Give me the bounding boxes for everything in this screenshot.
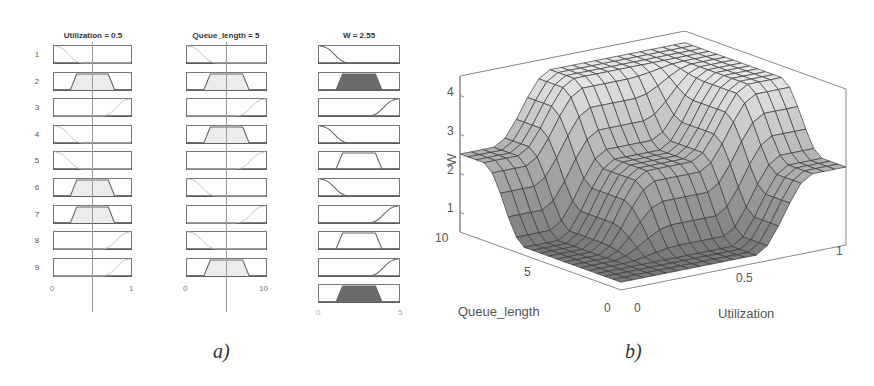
x-tick-0-5: 0.5 — [736, 271, 753, 285]
utilization-axis-label: Utilization — [718, 306, 774, 321]
x-tick-1: 1 — [836, 244, 843, 258]
z-tick-3: 3 — [447, 124, 454, 138]
queue-length-label-text: Queue_length — [458, 304, 540, 319]
caption-b: b) — [625, 340, 642, 363]
x-tick-0: 0 — [634, 301, 641, 315]
y-tick-10: 10 — [435, 231, 448, 245]
surface-plot — [0, 0, 874, 386]
y-tick-5: 5 — [524, 265, 531, 279]
y-tick-0: 0 — [604, 301, 611, 315]
z-tick-4: 4 — [447, 85, 454, 99]
z-tick-2: 2 — [447, 163, 454, 177]
queue-length-axis-label: Queue_length — [458, 304, 540, 319]
z-tick-1: 1 — [447, 201, 454, 215]
